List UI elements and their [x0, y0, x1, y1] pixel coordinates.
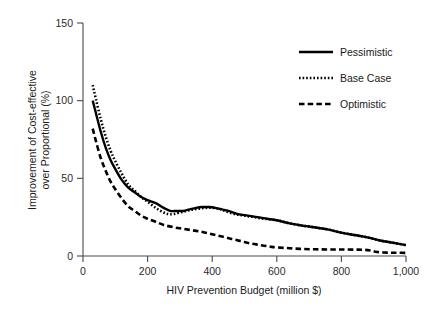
y-tick-label: 0 — [67, 250, 73, 262]
x-tick-label: 400 — [203, 265, 221, 277]
y-tick-label: 50 — [61, 172, 73, 184]
y-axis-title-line1: Improvement of Cost-effective — [26, 70, 38, 210]
y-tick-label: 100 — [55, 94, 73, 106]
chart-figure: 050100150 02004006008001,000 Pessimistic… — [0, 0, 438, 313]
x-axis-title: HIV Prevention Budget (million $) — [166, 284, 321, 296]
x-tick-label: 800 — [333, 265, 351, 277]
line-chart-svg: 050100150 02004006008001,000 Pessimistic… — [0, 0, 438, 313]
chart-legend: PessimisticBase CaseOptimistic — [299, 46, 393, 110]
y-axis-title-line2: over Proportional (%) — [39, 90, 51, 189]
legend-label-base-case: Base Case — [340, 72, 392, 84]
x-tick-label: 0 — [80, 265, 86, 277]
series-line-pessimistic — [93, 101, 406, 245]
series-line-optimistic — [93, 129, 406, 253]
data-series-group — [93, 85, 406, 253]
x-tick-label: 600 — [268, 265, 286, 277]
y-tick-label: 150 — [55, 17, 73, 29]
legend-label-pessimistic: Pessimistic — [340, 46, 393, 58]
x-axis-ticks: 02004006008001,000 — [80, 256, 419, 277]
legend-label-optimistic: Optimistic — [340, 98, 386, 110]
x-tick-label: 200 — [139, 265, 157, 277]
axes — [83, 23, 406, 256]
y-axis-ticks: 050100150 — [55, 17, 83, 262]
x-tick-label: 1,000 — [393, 265, 419, 277]
